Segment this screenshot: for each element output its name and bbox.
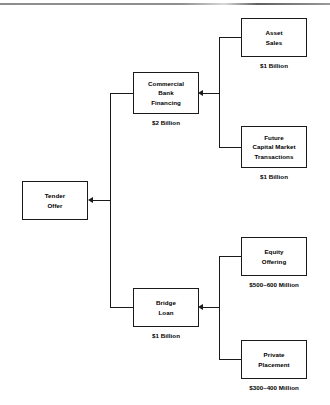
node-asset-sales-label: Asset Sales (265, 28, 282, 47)
arrowhead-into-commercial-bank (198, 90, 203, 96)
connector-lower-bus-to-bridge-loan (203, 307, 220, 308)
connector-lower-bus-vertical (219, 256, 220, 360)
caption-equity-offering: $500–600 Million (233, 281, 315, 288)
node-asset-sales[interactable]: Asset Sales (241, 18, 307, 57)
caption-commercial-bank-financing: $2 Billion (133, 119, 199, 126)
connector-asset-sales-horizontal (219, 37, 242, 38)
node-future-capital-market-transactions[interactable]: Future Capital Market Transactions (241, 126, 307, 168)
node-tender-offer-label: Tender Offer (45, 191, 65, 210)
connector-private-placement-horizontal (219, 359, 242, 360)
node-bridge-loan-label: Bridge Loan (156, 298, 176, 317)
node-commercial-bank-financing-label: Commercial Bank Financing (148, 79, 184, 107)
header-divider-rule (0, 3, 330, 5)
node-tender-offer[interactable]: Tender Offer (22, 181, 88, 220)
caption-bridge-loan: $1 Billion (133, 332, 199, 339)
connector-upper-bus-to-commercial-bank (203, 93, 220, 94)
caption-private-placement: $300–400 Million (233, 384, 315, 391)
connector-bridge-loan-to-trunk (110, 307, 133, 308)
node-future-capital-market-transactions-label: Future Capital Market Transactions (253, 133, 296, 161)
caption-asset-sales: $1 Billion (241, 62, 307, 69)
node-private-placement[interactable]: Private Placement (241, 340, 307, 379)
arrowhead-into-bridge-loan (198, 304, 203, 310)
tender-offer-financing-diagram: Tender Offer Commercial Bank Financing $… (0, 0, 330, 405)
connector-equity-offering-horizontal (219, 256, 242, 257)
connector-trunk-to-tender-offer (93, 200, 111, 201)
node-commercial-bank-financing[interactable]: Commercial Bank Financing (133, 72, 199, 114)
connector-commercial-bank-to-trunk (110, 93, 133, 94)
node-equity-offering[interactable]: Equity Offering (241, 237, 307, 276)
caption-future-capital-market-transactions: $1 Billion (241, 173, 307, 180)
node-equity-offering-label: Equity Offering (262, 247, 286, 266)
connector-future-capital-horizontal (219, 147, 242, 148)
node-bridge-loan[interactable]: Bridge Loan (133, 288, 199, 327)
arrowhead-into-tender-offer (88, 197, 93, 203)
node-private-placement-label: Private Placement (258, 350, 289, 369)
